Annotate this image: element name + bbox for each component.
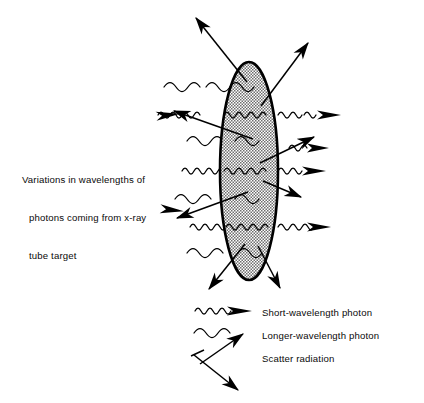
legend-label-longer-wavelength-photon: Longer-wavelength photon bbox=[262, 330, 379, 341]
caption-line-1: Variations in wavelengths of bbox=[22, 174, 202, 187]
figure-caption: Variations in wavelengths of photons com… bbox=[22, 149, 202, 275]
legend-symbol-short-wavelength-photon bbox=[195, 307, 252, 316]
arrowhead-exit-B bbox=[317, 111, 341, 120]
wave-long-C bbox=[187, 137, 223, 146]
arrowhead-exit-D bbox=[302, 167, 326, 176]
transmitted-photon-arrowheads bbox=[302, 111, 341, 232]
wave-exit-B1 bbox=[278, 112, 302, 118]
wave-exit-B2 bbox=[304, 112, 316, 118]
caption-line-2: photons coming from x-ray bbox=[22, 212, 202, 225]
arrowhead-exit-scatter-small bbox=[307, 144, 329, 153]
wave-exit-F bbox=[278, 224, 314, 230]
caption-line-3: tube target bbox=[22, 250, 202, 263]
wave-long-A1 bbox=[164, 83, 200, 92]
legend-label-short-wavelength-photon: Short-wavelength photon bbox=[262, 307, 372, 318]
arrowhead-exit-F bbox=[307, 223, 331, 232]
legend-symbol-scatter-radiation bbox=[191, 350, 238, 390]
legend bbox=[191, 307, 252, 391]
legend-label-scatter-radiation: Scatter radiation bbox=[262, 353, 334, 364]
scatter-ray-up-left bbox=[196, 18, 247, 82]
scatter-ray-up-right bbox=[261, 43, 308, 106]
legend-symbol-longer-wavelength-photon bbox=[194, 329, 243, 365]
wave-exit-D bbox=[278, 168, 302, 174]
wave-long-A2 bbox=[206, 83, 230, 92]
